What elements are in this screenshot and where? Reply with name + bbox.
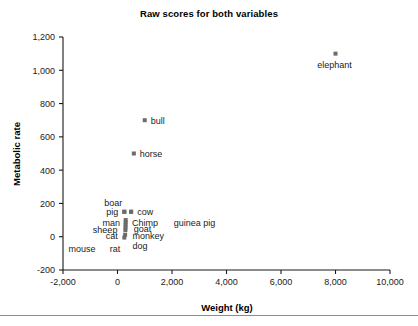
svg-text:1,000: 1,000 [32,66,55,76]
svg-text:8,000: 8,000 [324,277,347,287]
svg-text:800: 800 [40,99,55,109]
svg-text:-2,000: -2,000 [50,277,76,287]
data-marker [122,236,126,240]
svg-text:6,000: 6,000 [270,277,293,287]
scatter-plot: -20002004006008001,0001,200-2,00002,0004… [0,0,418,326]
point-label-cat: cat [106,231,119,241]
bottom-divider [0,315,418,316]
svg-text:0: 0 [115,277,120,287]
point-label-rat: rat [110,244,121,254]
data-marker-cow [129,210,133,214]
point-label-monkey: monkey [132,231,164,241]
data-marker [123,228,127,232]
data-marker-elephant [334,52,338,56]
svg-text:-200: -200 [37,265,55,275]
y-axis-title: Metabolic rate [11,122,22,186]
point-label-pig: pig [106,207,118,217]
point-label-elephant: elephant [317,60,352,70]
point-label-guinea-pig: guinea pig [174,218,216,228]
point-label-mouse: mouse [69,244,96,254]
svg-text:0: 0 [50,232,55,242]
svg-text:400: 400 [40,166,55,176]
point-label-bull: bull [151,116,165,126]
point-labels: elephantbullhorsecowpigboarChimpmangoats… [69,60,353,254]
data-marker-bull [143,118,147,122]
point-label-dog: dog [132,241,147,251]
data-marker-pig [122,210,126,214]
svg-text:4,000: 4,000 [215,277,238,287]
svg-text:1,200: 1,200 [32,32,55,42]
svg-text:200: 200 [40,199,55,209]
chart-figure: Raw scores for both variables -200020040… [0,0,418,326]
svg-text:600: 600 [40,132,55,142]
point-label-boar: boar [104,198,122,208]
point-label-cow: cow [137,207,154,217]
svg-text:2,000: 2,000 [161,277,184,287]
point-label-horse: horse [140,149,163,159]
svg-text:10,000: 10,000 [376,277,404,287]
x-axis-title: Weight (kg) [201,302,253,313]
data-marker-horse [132,152,136,156]
data-points [122,52,337,240]
